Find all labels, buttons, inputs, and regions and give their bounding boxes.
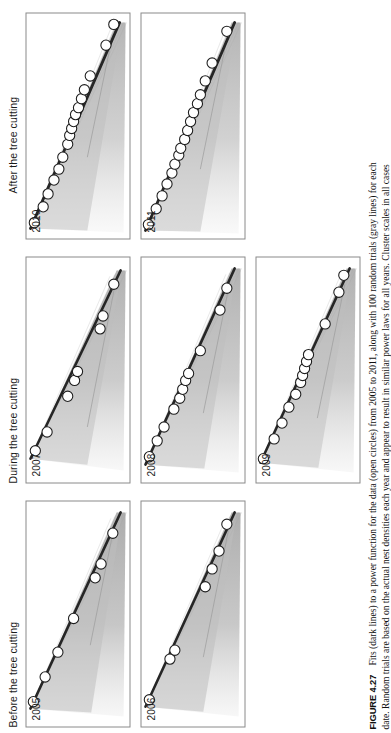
panel-year-label: 2006 xyxy=(145,697,156,720)
panel-plot-2008 xyxy=(141,257,244,482)
panel-plot-2009 xyxy=(256,257,359,482)
panel-2008[interactable]: 2008 xyxy=(140,256,245,483)
caption-line-1: FIGURE 4.27 Fits (dark lines) to a power… xyxy=(366,3,379,729)
panel-year-label: 2009 xyxy=(260,453,271,476)
caption-line-2: date. Random trials are based on the act… xyxy=(379,3,391,729)
group-label-after: After the tree cutting xyxy=(6,96,18,193)
panel-2011[interactable]: 2011 xyxy=(140,12,245,239)
panel-2006[interactable]: 2006 xyxy=(140,500,245,727)
panel-year-label: 2007 xyxy=(30,453,41,476)
figure-number-label: FIGURE 4.27 xyxy=(367,665,377,729)
group-label-during: During the tree cutting xyxy=(6,377,18,483)
panel-plot-2007 xyxy=(26,257,129,482)
panel-2009[interactable]: 2009 xyxy=(255,256,360,483)
figure-stage: Before the tree cutting During the tree … xyxy=(0,0,391,733)
panel-year-label: 2005 xyxy=(30,697,41,720)
panel-2010[interactable]: 2010 xyxy=(25,12,130,239)
panel-plot-2011 xyxy=(141,13,244,238)
panel-plot-2010 xyxy=(26,13,129,238)
caption-text-1: Fits (dark lines) to a power function fo… xyxy=(367,162,377,665)
panel-year-label: 2010 xyxy=(30,209,41,232)
panel-2007[interactable]: 2007 xyxy=(25,256,130,483)
panel-plot-2005 xyxy=(26,501,129,726)
panel-year-label: 2008 xyxy=(145,453,156,476)
figure-caption: FIGURE 4.27 Fits (dark lines) to a power… xyxy=(366,3,391,729)
panel-2005[interactable]: 2005 xyxy=(25,500,130,727)
panel-year-label: 2011 xyxy=(145,210,156,232)
panel-plot-2006 xyxy=(141,501,244,726)
group-label-before: Before the tree cutting xyxy=(6,621,18,727)
